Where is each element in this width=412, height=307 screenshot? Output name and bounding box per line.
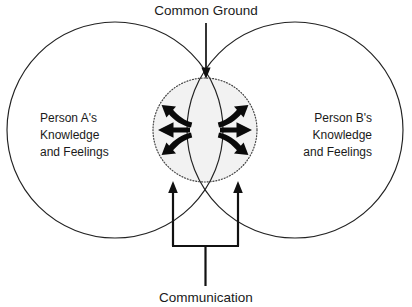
- arrow-down-icon: [201, 23, 210, 79]
- person-b-line-3: and Feelings: [303, 145, 372, 159]
- person-b-line-2: Knowledge: [313, 128, 373, 142]
- common-ground-label: Common Ground: [154, 3, 258, 18]
- person-a-line-3: and Feelings: [40, 145, 109, 159]
- person-a-line-1: Person A's: [40, 111, 97, 125]
- person-a-label: Person A's Knowledge and Feelings: [40, 111, 109, 159]
- person-b-label: Person B's Knowledge and Feelings: [303, 111, 372, 159]
- communication-bracket: [168, 181, 243, 286]
- venn-diagram-container: Common Ground Communication Person A's K…: [0, 0, 412, 307]
- person-a-line-2: Knowledge: [40, 128, 100, 142]
- communication-label: Communication: [159, 290, 253, 305]
- arrow-up-icon-left: [168, 181, 178, 193]
- arrow-up-icon-right: [233, 181, 243, 193]
- venn-diagram-canvas: Common Ground Communication Person A's K…: [0, 0, 412, 307]
- person-b-line-1: Person B's: [314, 111, 372, 125]
